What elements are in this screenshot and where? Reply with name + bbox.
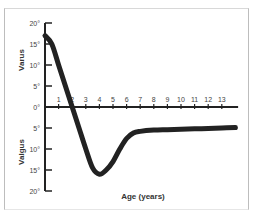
x-axis-label: Age (years) xyxy=(121,192,165,201)
x-tick-label: 4 xyxy=(97,96,101,103)
y-tick-label: 15° xyxy=(29,167,40,174)
x-tick-label: 3 xyxy=(84,96,88,103)
y-axis-label-varus: Varus xyxy=(17,49,26,71)
x-tick-label: 11 xyxy=(191,96,198,103)
y-tick-label: 15° xyxy=(29,41,40,48)
y-axis-label-valgus: Valgus xyxy=(17,139,26,165)
y-tick-label: 10° xyxy=(29,146,40,153)
x-tick-label: 1 xyxy=(57,96,61,103)
y-tick-label: 5° xyxy=(33,125,40,132)
y-tick-label: 5° xyxy=(33,83,40,90)
y-tick-label: 20° xyxy=(29,20,40,27)
x-tick-label: 9 xyxy=(165,96,169,103)
x-tick-label: 8 xyxy=(152,96,156,103)
x-tick-label: 10 xyxy=(177,96,185,103)
y-tick-label: 20° xyxy=(29,188,40,195)
x-tick-label: 13 xyxy=(218,96,226,103)
y-tick-label: 10° xyxy=(29,62,40,69)
line-chart: 20°15°10°5°0°5°10°15°20°1234567891011121… xyxy=(0,0,255,213)
y-tick-label: 0° xyxy=(33,104,40,111)
x-tick-label: 12 xyxy=(204,96,212,103)
x-tick-label: 5 xyxy=(111,96,115,103)
x-tick-label: 7 xyxy=(138,96,142,103)
x-tick-label: 6 xyxy=(125,96,129,103)
